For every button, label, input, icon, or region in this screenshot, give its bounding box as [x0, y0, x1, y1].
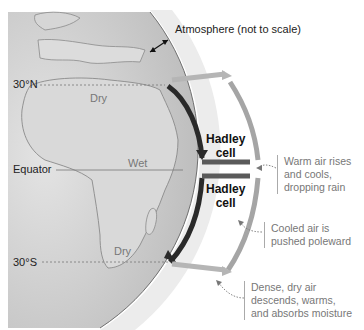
annotation-pushed-poleward: Cooled air is pushed poleward: [264, 222, 351, 248]
hadley-cell-north-line2: cell: [206, 146, 245, 160]
region-label-wet: Wet: [128, 157, 147, 170]
annotation-rise-line2: and cools,: [284, 168, 351, 181]
hadley-cell-south-line2: cell: [206, 196, 245, 210]
latitude-label-equator: Equator: [13, 163, 52, 176]
hadley-cell-diagram: Atmosphere (not to scale) 30°N Equator 3…: [0, 0, 364, 330]
arrow-top-north: [222, 70, 232, 80]
region-label-dry-south: Dry: [114, 245, 131, 258]
annotation-rise-line1: Warm air rises: [284, 155, 351, 168]
leader-descend: [218, 282, 244, 298]
hadley-cell-label-north: Hadley cell: [206, 132, 245, 160]
hadley-cell-label-south: Hadley cell: [206, 182, 245, 210]
annotation-rise-line3: dropping rain: [284, 181, 351, 194]
annotation-descend-line2: descends, warms,: [251, 294, 352, 307]
latitude-label-30n: 30°N: [13, 78, 38, 91]
annotation-dense-dry-air: Dense, dry air descends, warms, and abso…: [244, 281, 352, 320]
hadley-cell-south-line1: Hadley: [206, 182, 245, 196]
annotation-warm-air-rises: Warm air rises and cools, dropping rain: [277, 155, 351, 194]
annotation-poleward-line1: Cooled air is: [271, 222, 351, 235]
atmosphere-label: Atmosphere (not to scale): [175, 23, 301, 36]
annotation-poleward-line2: pushed poleward: [271, 235, 351, 248]
region-label-dry-north: Dry: [90, 92, 107, 105]
annotation-descend-line1: Dense, dry air: [251, 281, 352, 294]
latitude-label-30s: 30°S: [13, 256, 37, 269]
annotation-descend-line3: and absorbs moisture: [251, 307, 352, 320]
hadley-cell-north-line1: Hadley: [206, 132, 245, 146]
